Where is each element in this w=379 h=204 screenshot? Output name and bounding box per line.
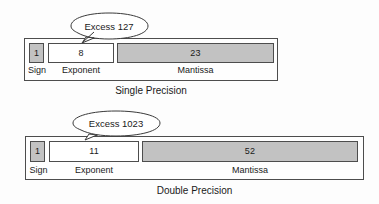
- mantissa-bit-count: 23: [190, 49, 200, 58]
- excess-1023-callout-label: Excess 1023: [72, 119, 160, 129]
- double-precision-exponent-field: 11: [49, 141, 139, 162]
- double-precision-mantissa-label: Mantissa: [142, 166, 358, 175]
- double-precision-exponent-label: Exponent: [49, 166, 139, 175]
- floating-point-formats-diagram: 1 8 23 Sign Exponent Mantissa Excess 127…: [0, 0, 379, 204]
- double-precision-caption: Double Precision: [25, 186, 364, 196]
- mantissa-bit-count: 52: [245, 147, 255, 156]
- single-precision-exponent-field: 8: [48, 43, 114, 63]
- sign-bit-count: 1: [35, 147, 40, 156]
- single-precision-mantissa-label: Mantissa: [117, 66, 274, 75]
- double-precision-sign-label: Sign: [26, 166, 51, 175]
- sign-bit-count: 1: [34, 49, 39, 58]
- double-precision-format-block: 1 11 52 Sign Exponent Mantissa: [25, 136, 364, 180]
- single-precision-sign-field: 1: [29, 43, 44, 63]
- excess-127-callout-label: Excess 127: [70, 22, 148, 32]
- double-precision-sign-field: 1: [30, 141, 45, 162]
- single-precision-format-block: 1 8 23 Sign Exponent Mantissa: [24, 38, 278, 81]
- exponent-bit-count: 11: [89, 147, 99, 156]
- exponent-bit-count: 8: [78, 49, 83, 58]
- single-precision-caption: Single Precision: [24, 86, 278, 96]
- single-precision-exponent-label: Exponent: [48, 66, 114, 75]
- double-precision-mantissa-field: 52: [142, 141, 358, 162]
- excess-1023-callout: Excess 1023: [72, 110, 164, 140]
- single-precision-mantissa-field: 23: [117, 43, 274, 63]
- excess-127-callout: Excess 127: [70, 12, 152, 44]
- single-precision-sign-label: Sign: [25, 66, 49, 75]
